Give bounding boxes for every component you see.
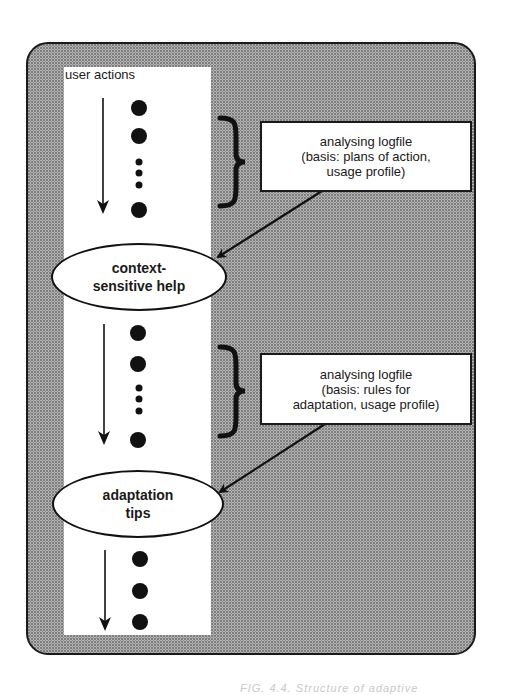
node-line: tips — [54, 504, 222, 522]
curly-brace-icon — [220, 347, 245, 436]
action-dot-icon — [131, 100, 147, 116]
ellipsis-dot-icon — [136, 159, 143, 166]
analysis-box-rules: analysing logfile (basis: rules for adap… — [260, 353, 472, 425]
diagram-graphics — [0, 0, 508, 695]
node-line: adaptation — [54, 486, 222, 504]
action-sequence-2 — [98, 324, 146, 448]
context-sensitive-help-node: context- sensitive help — [51, 243, 227, 311]
analysis-box-plans: analysing logfile (basis: plans of actio… — [260, 121, 472, 192]
adaptation-tips-node: adaptation tips — [52, 470, 224, 538]
node-line: context- — [53, 259, 225, 277]
curly-brace-icon — [220, 118, 245, 206]
ellipsis-dot-icon — [136, 182, 143, 189]
box-line: analysing logfile — [262, 367, 470, 382]
ellipsis-dot-icon — [136, 170, 143, 177]
box-line: analysing logfile — [262, 134, 470, 149]
action-sequence-1 — [97, 98, 147, 218]
connector-arrow-2 — [220, 424, 325, 492]
figure-caption: FIG. 4.4. Structure of adaptive — [240, 682, 418, 694]
box-line: (basis: plans of action, — [262, 149, 470, 164]
node-line: sensitive help — [53, 277, 225, 295]
action-dot-icon — [131, 128, 147, 144]
box-line: usage profile) — [262, 164, 470, 179]
box-line: (basis: rules for — [262, 382, 470, 397]
action-sequence-3 — [99, 550, 148, 631]
action-dot-icon — [131, 202, 147, 218]
box-line: adaptation, usage profile) — [262, 397, 470, 412]
